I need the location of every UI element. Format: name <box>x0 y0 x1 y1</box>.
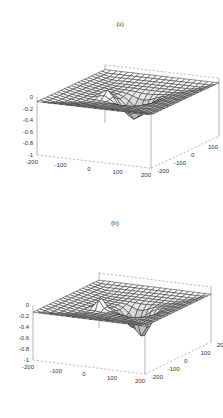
x-tick-label: 100 <box>107 375 118 381</box>
y-tick-label: -100 <box>168 366 181 372</box>
z-tick-label: -0.4 <box>19 324 30 330</box>
z-tick-label: -0.2 <box>19 313 30 319</box>
y-tick-label: 200 <box>217 342 223 348</box>
z-tick-label: -0.8 <box>23 140 34 146</box>
plot-title-b: (b) <box>111 219 119 227</box>
z-tick-label: -0.6 <box>23 129 34 135</box>
x-tick-label: 200 <box>141 172 152 178</box>
z-tick-label: 0 <box>26 302 30 308</box>
z-tick-label: 0 <box>30 94 34 100</box>
y-tick-label: 0 <box>191 152 195 158</box>
surface-plot-a-svg: (a) 0-0.2-0.4-0.6-0.8-1-200-1000100200-2… <box>0 0 223 209</box>
surface-plot-b-svg: (b) 0-0.2-0.4-0.6-0.8-1-200-1000100200-2… <box>0 209 223 418</box>
x-tick-label: 0 <box>82 371 86 377</box>
x-tick-label: -100 <box>54 162 67 168</box>
x-tick-label: -200 <box>22 364 35 370</box>
z-tick-label: -0.2 <box>23 106 34 112</box>
x-tick-label: 0 <box>87 166 91 172</box>
surface-plot-a: (a) 0-0.2-0.4-0.6-0.8-1-200-1000100200-2… <box>0 0 223 209</box>
plot-title-a: (a) <box>116 20 123 28</box>
z-tick-label: -0.4 <box>23 117 34 123</box>
y-tick-label: 0 <box>184 358 188 364</box>
z-tick-label: -0.6 <box>19 335 30 341</box>
x-tick-label: 100 <box>112 169 123 175</box>
y-tick-label: 100 <box>208 144 219 150</box>
x-tick-label: -200 <box>26 159 39 165</box>
z-tick-label: -0.8 <box>19 346 30 352</box>
y-tick-label: 100 <box>201 350 212 356</box>
y-tick-label: -200 <box>151 374 164 380</box>
z-tick-label: -1 <box>24 357 30 363</box>
surface-mesh-a <box>37 70 219 120</box>
y-tick-label: -100 <box>174 160 187 166</box>
x-tick-label: 200 <box>135 378 146 384</box>
z-tick-label: -1 <box>28 152 34 158</box>
surface-mesh-b <box>33 280 211 336</box>
x-tick-label: -100 <box>50 368 63 374</box>
surface-plot-b: (b) 0-0.2-0.4-0.6-0.8-1-200-1000100200-2… <box>0 209 223 418</box>
y-tick-label: -200 <box>157 168 170 174</box>
